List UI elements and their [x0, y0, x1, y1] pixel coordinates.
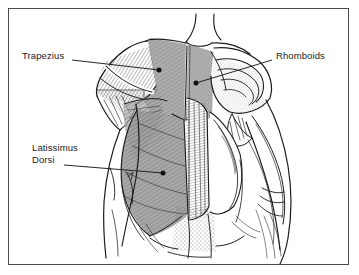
dot-trapezius	[157, 68, 162, 73]
right-arm	[246, 100, 291, 264]
label-latissimus-line1: Latissimus	[32, 142, 78, 153]
label-latissimus-dorsi: LatissimusDorsi	[32, 142, 78, 165]
label-rhomboids: Rhomboids	[276, 50, 325, 62]
right-deltoid	[208, 48, 274, 120]
label-latissimus-line2: Dorsi	[32, 154, 55, 165]
anatomy-figure: Trapezius Rhomboids LatissimusDorsi	[0, 0, 359, 275]
label-trapezius: Trapezius	[22, 50, 64, 62]
back-muscle-illustration	[0, 0, 359, 275]
neck-outline	[186, 14, 221, 46]
dot-latissimus	[161, 171, 166, 176]
dot-rhomboids	[194, 81, 199, 86]
